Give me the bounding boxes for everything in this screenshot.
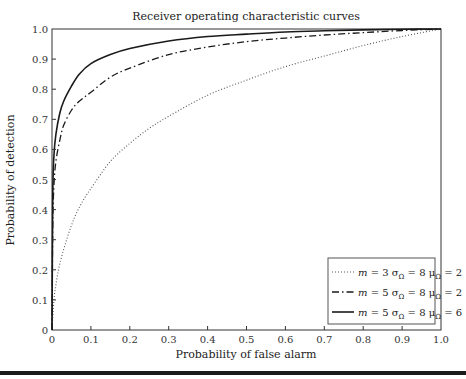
y-tick-label: 0 (42, 325, 48, 336)
x-tick-label: 0.6 (277, 334, 293, 345)
x-tick-label: 0.4 (200, 334, 216, 345)
chart-title: Receiver operating characteristic curves (132, 10, 360, 23)
y-tick-label: 0.3 (32, 235, 48, 246)
x-tick-label: 0.9 (394, 334, 410, 345)
x-tick-label: 0.8 (355, 334, 371, 345)
y-tick-label: 0.6 (32, 144, 48, 155)
y-tick-label: 0.9 (32, 54, 48, 65)
y-tick-label: 0.4 (32, 205, 48, 216)
y-tick-label: 0.8 (32, 84, 48, 95)
x-tick-label: 0.3 (161, 334, 177, 345)
bottom-rule-divider (0, 371, 466, 375)
y-tick-label: 0.2 (32, 265, 48, 276)
x-tick-label: 0.7 (316, 334, 332, 345)
y-tick-label: 0.5 (32, 175, 48, 186)
x-tick-label: 0 (49, 334, 55, 345)
x-axis-label: Probability of false alarm (176, 348, 317, 361)
x-tick-label: 1.0 (433, 334, 449, 345)
y-tick-label: 0.1 (32, 295, 48, 306)
x-tick-label: 0.5 (239, 334, 255, 345)
y-axis-label: Probability of detection (4, 114, 17, 245)
x-tick-label: 0.1 (83, 334, 99, 345)
x-tick-label: 0.2 (122, 334, 138, 345)
y-tick-label: 0.7 (32, 114, 48, 125)
roc-chart: Receiver operating characteristic curves… (0, 0, 466, 379)
legend: m = 3 σΩ = 8 μΩ = 2m = 5 σΩ = 8 μΩ = 2m … (328, 258, 462, 324)
x-axis-ticks: 00.10.20.30.40.50.60.70.80.91.0 (49, 326, 449, 345)
y-tick-label: 1.0 (32, 24, 48, 35)
